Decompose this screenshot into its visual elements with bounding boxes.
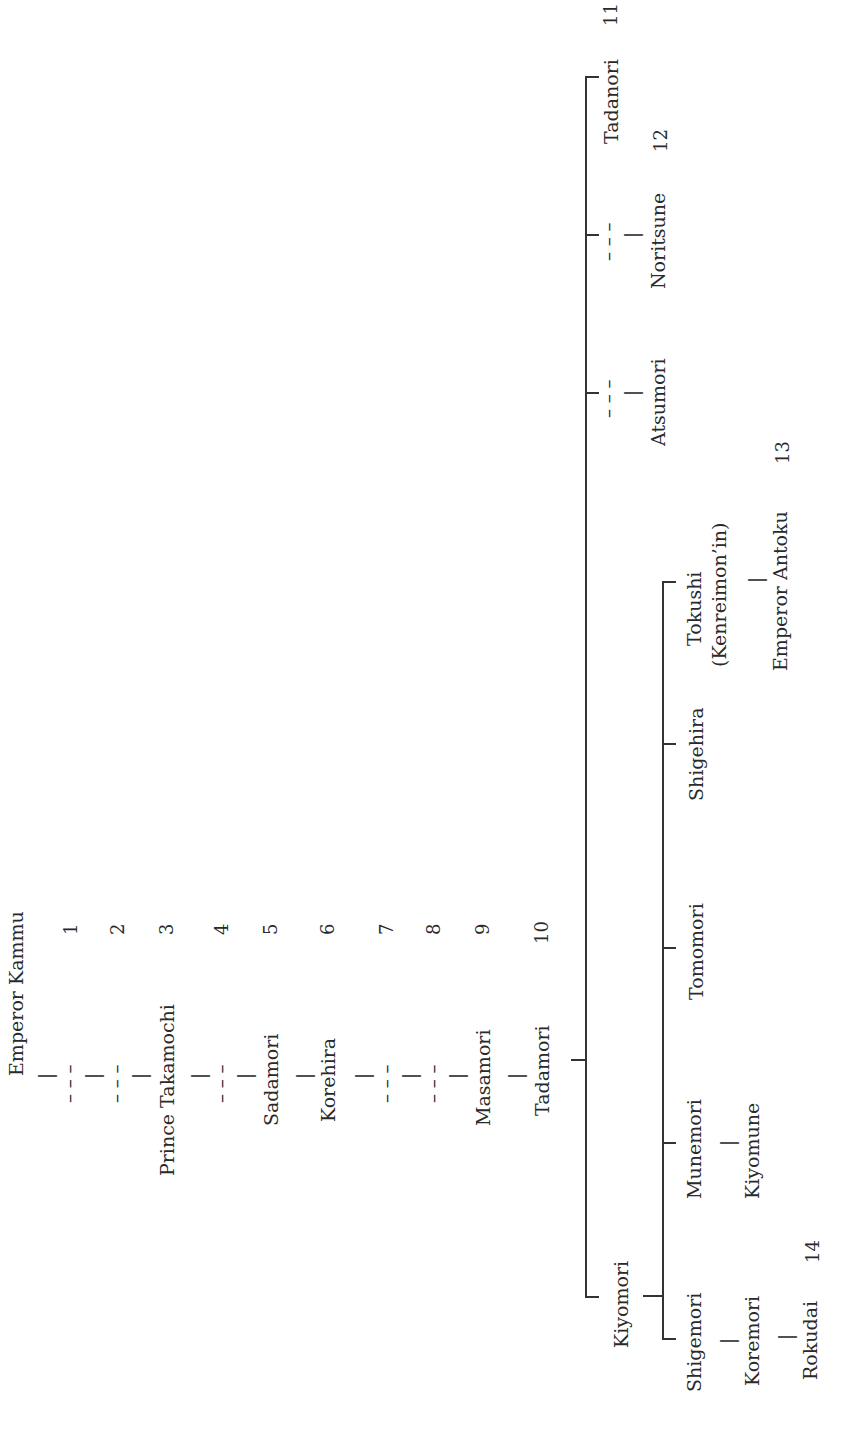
connector-tick: | (777, 1334, 795, 1340)
dashed-gap-8: – – – (425, 1065, 443, 1103)
connector-tick: | (719, 1140, 737, 1146)
shigemori-bracket (662, 1338, 676, 1340)
genealogy-diagram: Emperor Kammu | – – – | – – – | Prince T… (0, 0, 859, 1448)
tokushi-bracket (662, 581, 676, 583)
kiyomori-children-trunk (662, 581, 664, 1339)
name-tadamori: Tadamori (533, 1025, 552, 1116)
dashed-gap-7: – – – (378, 1065, 396, 1103)
connector-tick: | (623, 232, 641, 238)
name-masamori: Masamori (474, 1030, 493, 1126)
name-tomomori: Tomomori (687, 903, 706, 1000)
generation-number-9: 9 (474, 924, 492, 935)
name-kenreimon-in: (Kenreimon’in) (710, 523, 729, 667)
shigehira-tick (662, 743, 676, 745)
dashed-gap-4: – – – (213, 1065, 231, 1103)
dashed-gap-noritsune: – – – (600, 223, 618, 261)
name-kiyomune: Kiyomune (743, 1103, 762, 1199)
connector-tick: | (84, 1073, 102, 1079)
dashed-gap-1: – – – (61, 1065, 79, 1103)
generation-number-13: 13 (774, 441, 792, 464)
generation-number-14: 14 (804, 1240, 822, 1263)
tadamori-tick (571, 1059, 586, 1061)
generation-number-5: 5 (262, 924, 280, 935)
name-emperor-kammu: Emperor Kammu (7, 911, 26, 1076)
name-atsumori: Atsumori (649, 358, 668, 446)
name-rokudai: Rokudai (801, 1301, 820, 1380)
tomomori-tick (662, 947, 676, 949)
generation-number-4: 4 (213, 924, 231, 935)
connector-tick: | (448, 1073, 466, 1079)
generation-number-1: 1 (62, 924, 80, 935)
name-korehira: Korehira (319, 1038, 338, 1122)
kiyomori-bracket (585, 1296, 599, 1298)
name-noritsune: Noritsune (649, 193, 668, 289)
name-sadamori: Sadamori (262, 1034, 281, 1126)
connector-tick: | (190, 1073, 208, 1079)
name-kiyomori: Kiyomori (612, 1261, 631, 1348)
generation-number-10: 10 (533, 921, 551, 944)
generation-number-3: 3 (158, 924, 176, 935)
name-emperor-antoku: Emperor Antoku (771, 511, 790, 671)
name-koremori: Koremori (743, 1296, 762, 1386)
munemori-tick (662, 1142, 676, 1144)
generation-number-7: 7 (378, 924, 396, 935)
connector-tick: | (37, 1073, 55, 1079)
connector-tick: | (401, 1073, 419, 1079)
dashed-gap-2: – – – (108, 1065, 126, 1103)
tadanori-bracket (585, 76, 599, 78)
kiyomori-tick (643, 1295, 663, 1297)
name-tokushi: Tokushi (685, 572, 704, 646)
connector-tick: | (354, 1073, 372, 1079)
name-tadanori: Tadanori (602, 59, 621, 144)
generation-number-12: 12 (652, 129, 670, 152)
connector-tick: | (747, 577, 765, 583)
name-prince-takamochi: Prince Takamochi (158, 1004, 177, 1176)
connector-tick: | (507, 1073, 525, 1079)
connector-tick: | (623, 390, 641, 396)
noritsune-tick (585, 234, 599, 236)
connector-tick: | (719, 1338, 737, 1344)
connector-tick: | (295, 1073, 313, 1079)
name-munemori: Munemori (685, 1099, 704, 1199)
dashed-gap-atsumori: – – – (600, 380, 618, 418)
tadamori-children-trunk (585, 76, 587, 1298)
connector-tick: | (131, 1073, 149, 1079)
atsumori-tick (585, 392, 599, 394)
name-shigemori: Shigemori (685, 1293, 704, 1392)
connector-tick: | (236, 1073, 254, 1079)
generation-number-6: 6 (319, 924, 337, 935)
generation-number-2: 2 (109, 924, 127, 935)
name-shigehira: Shigehira (687, 708, 706, 801)
generation-number-8: 8 (425, 924, 443, 935)
generation-number-11: 11 (602, 3, 620, 26)
